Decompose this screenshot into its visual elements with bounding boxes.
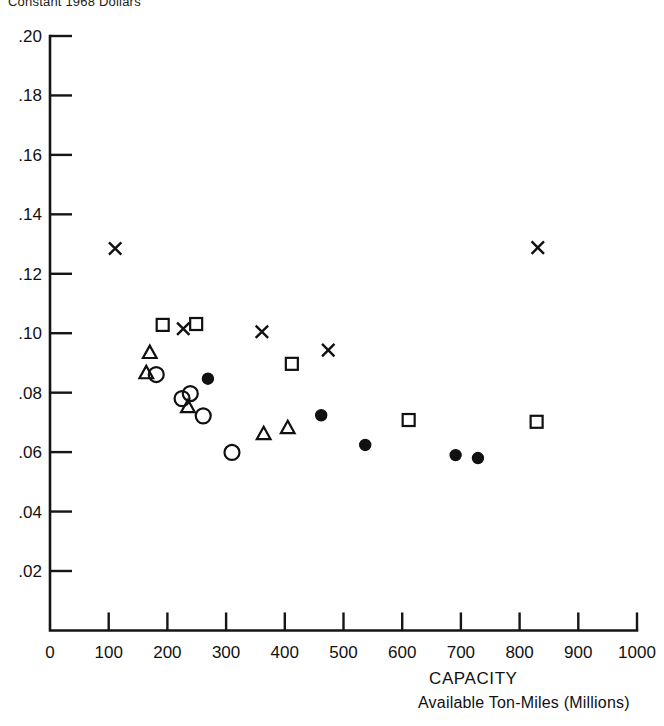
y-tick-label: .18 — [18, 86, 42, 105]
x-tick-label: 800 — [505, 643, 533, 662]
y-tick-label: .16 — [18, 146, 42, 165]
axis-lines — [50, 36, 637, 630]
chart-canvas: .02.04.06.08.10.12.14.16.18.200100200300… — [0, 0, 664, 726]
data-point-triangle — [281, 421, 295, 433]
x-tick-label: 300 — [212, 643, 240, 662]
x-tick-label: 600 — [388, 643, 416, 662]
y-tick-label: .02 — [18, 562, 42, 581]
data-point-circle-filled — [316, 410, 327, 421]
data-point-cross — [322, 344, 334, 356]
y-tick-label: .10 — [18, 324, 42, 343]
data-point-square — [190, 318, 202, 330]
y-tick-label: .20 — [18, 27, 42, 46]
y-tick-label: .14 — [18, 205, 42, 224]
x-tick-label: 900 — [564, 643, 592, 662]
data-point-triangle — [257, 427, 271, 439]
data-point-cross — [532, 241, 544, 253]
data-point-square — [157, 319, 169, 331]
data-point-square — [403, 414, 415, 426]
x-tick-label: 400 — [271, 643, 299, 662]
data-point-circle-open — [196, 408, 211, 423]
x-tick-label: 700 — [447, 643, 475, 662]
scatter-plot-figure: Constant 1968 Dollars .02.04.06.08.10.12… — [0, 0, 664, 726]
y-tick-label: .04 — [18, 503, 42, 522]
y-tick-label: .08 — [18, 384, 42, 403]
data-point-circle-filled — [450, 449, 461, 460]
x-axis-title: CAPACITY — [429, 669, 518, 689]
data-point-cross — [109, 242, 121, 254]
data-point-square — [286, 358, 298, 370]
data-point-cross — [177, 323, 189, 335]
data-point-circle-filled — [360, 439, 371, 450]
y-tick-label: .06 — [18, 443, 42, 462]
x-tick-label: 200 — [153, 643, 181, 662]
x-tick-label: 100 — [95, 643, 123, 662]
y-tick-label: .12 — [18, 265, 42, 284]
data-point-cross — [256, 326, 268, 338]
data-point-triangle — [143, 346, 157, 358]
data-point-circle-open — [224, 445, 239, 460]
x-tick-label: 500 — [329, 643, 357, 662]
data-point-square — [531, 416, 543, 428]
x-tick-label: 1000 — [618, 643, 656, 662]
x-axis-subtitle: Available Ton-Miles (Millions) — [418, 694, 630, 712]
data-point-circle-filled — [472, 452, 483, 463]
x-tick-label: 0 — [45, 643, 54, 662]
data-point-circle-filled — [202, 373, 213, 384]
